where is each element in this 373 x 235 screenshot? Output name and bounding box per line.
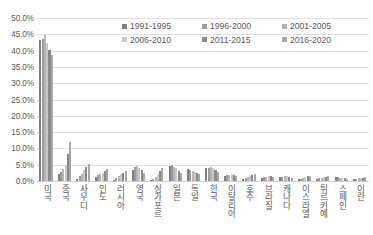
bar-cluster	[58, 18, 72, 181]
bar-cluster	[76, 18, 90, 181]
y-axis-tick-label: 40.0%	[11, 46, 34, 55]
legend-swatch-icon	[282, 24, 287, 29]
legend-item: 2001-2005	[282, 22, 362, 31]
x-axis-tick-label: 호주	[245, 184, 254, 201]
x-axis-tick-label: 인도	[97, 184, 106, 201]
legend-label: 2006-2010	[130, 36, 171, 45]
x-axis-tick-label: 사우디	[79, 184, 88, 209]
bar	[51, 55, 53, 181]
y-axis: 0.0%5.0%10.0%15.0%20.0%25.0%30.0%35.0%40…	[0, 18, 36, 184]
x-axis-tick-label: 캐나다	[282, 184, 291, 209]
legend: 1991-19951996-20002001-20052006-20102011…	[122, 22, 362, 44]
x-axis-tick-label: 스페인	[337, 184, 346, 209]
x-axis-tick-label: 이란	[355, 184, 364, 201]
bar	[254, 174, 256, 181]
x-axis-tick-label: 이탈리아	[226, 184, 235, 218]
y-axis-tick-label: 25.0%	[11, 95, 34, 104]
bar	[143, 173, 145, 181]
bar-cluster	[39, 18, 53, 181]
bar-chart: 0.0%5.0%10.0%15.0%20.0%25.0%30.0%35.0%40…	[0, 0, 373, 235]
bar	[88, 164, 90, 181]
x-axis-tick-label: 영국	[134, 184, 143, 201]
legend-item: 2011-2015	[202, 36, 282, 45]
x-axis-tick-label: 싱가포르	[153, 184, 162, 218]
bar	[125, 171, 127, 181]
legend-item: 2016-2020	[282, 36, 362, 45]
y-axis-tick-label: 30.0%	[11, 79, 34, 88]
x-axis-tick-label: 일본	[171, 184, 180, 201]
y-axis-tick-label: 5.0%	[16, 160, 34, 169]
legend-label: 2016-2020	[290, 36, 331, 45]
legend-swatch-icon	[122, 24, 127, 29]
legend-label: 2001-2005	[290, 22, 331, 31]
bar	[198, 174, 200, 181]
legend-label: 1996-2000	[210, 22, 251, 31]
x-axis: 미국중국사우디인도러시아영국싱가포르일본독일한국이탈리아호주브라질캐나다이스라엘…	[37, 184, 369, 235]
legend-label: 2011-2015	[210, 36, 250, 45]
bar	[161, 168, 163, 181]
bar	[69, 142, 71, 181]
legend-item: 1996-2000	[202, 22, 282, 31]
x-axis-tick-label: 러시아	[116, 184, 125, 209]
y-axis-tick-label: 35.0%	[11, 62, 34, 71]
x-axis-tick-label: 브라질	[263, 184, 272, 209]
x-axis-tick-label: 한국	[208, 184, 217, 201]
y-axis-tick-label: 50.0%	[11, 14, 34, 23]
y-axis-tick-label: 15.0%	[11, 128, 34, 137]
legend-item: 1991-1995	[122, 22, 202, 31]
x-axis-tick-label: 중국	[60, 184, 69, 201]
y-axis-tick-label: 20.0%	[11, 111, 34, 120]
y-axis-tick-label: 45.0%	[11, 30, 34, 39]
y-axis-tick-label: 10.0%	[11, 144, 34, 153]
legend-label: 1991-1995	[130, 22, 171, 31]
bar	[106, 169, 108, 181]
legend-swatch-icon	[282, 37, 287, 42]
legend-swatch-icon	[202, 24, 207, 29]
legend-item: 2006-2010	[122, 36, 202, 45]
y-axis-tick-label: 0.0%	[16, 177, 34, 186]
legend-swatch-icon	[122, 37, 127, 42]
bar-cluster	[95, 18, 109, 181]
x-axis-tick-label: 미국	[42, 184, 51, 201]
x-axis-tick-label: 튀르키예	[319, 184, 328, 218]
legend-swatch-icon	[202, 37, 207, 42]
bar	[217, 172, 219, 181]
x-axis-tick-label: 독일	[189, 184, 198, 201]
axis-baseline	[37, 181, 369, 182]
bar	[180, 173, 182, 181]
x-axis-tick-label: 이스라엘	[300, 184, 309, 218]
